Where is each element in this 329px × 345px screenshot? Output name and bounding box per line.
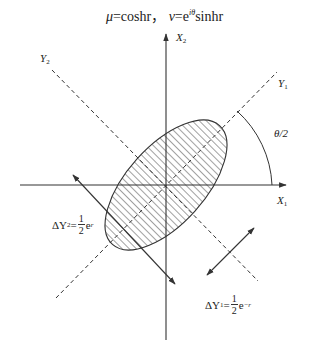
angle-label: θ/2 [274,128,288,139]
delta-y2-label: ΔY2= 12 er [52,213,93,236]
squeezed-state-diagram: μ=coshr， ν=eiθsinhr [0,0,329,345]
uncertainty-ellipse [60,80,280,300]
y1-label: Y1 [278,78,288,91]
x1-label: X1 [277,195,287,208]
x2-label: X2 [176,32,186,45]
diagram-canvas [0,0,329,345]
angle-arc [237,111,272,185]
delta-y1-label: ΔY1= 12 e−r [205,293,251,316]
delta-y1-arrow [207,228,254,275]
y2-axis-dashed [52,70,258,281]
y2-label: Y2 [40,53,50,66]
